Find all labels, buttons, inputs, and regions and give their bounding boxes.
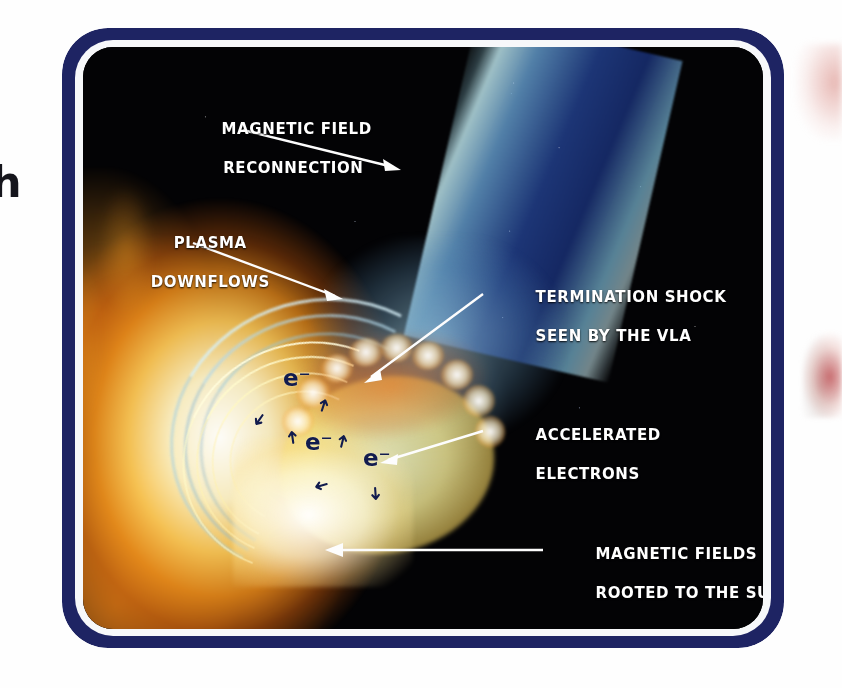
electron-motion-arrow xyxy=(285,430,300,445)
shock-blob xyxy=(410,340,446,372)
label-magnetic-fields-rooted: MAGNETIC FIELDS ROOTED TO THE SUN xyxy=(549,526,763,622)
label-line-2: SEEN BY THE VLA xyxy=(536,327,692,345)
label-plasma-downflows: PLASMA DOWNFLOWS xyxy=(103,215,271,311)
label-termination-shock: TERMINATION SHOCK SEEN BY THE VLA xyxy=(489,269,726,365)
shock-blob xyxy=(379,332,415,364)
termination-shock-arc xyxy=(270,318,517,498)
label-line-1: TERMINATION SHOCK xyxy=(536,288,727,306)
label-line-2: RECONNECTION xyxy=(223,159,363,177)
cut-off-text-glyph: h xyxy=(0,157,21,207)
label-line-2: DOWNFLOWS xyxy=(151,273,270,291)
label-line-2: ELECTRONS xyxy=(536,465,640,483)
electron-symbol: e⁻ xyxy=(283,365,311,391)
illustration-frame: e⁻ e⁻ e⁻ xyxy=(62,28,784,648)
page-bleed-mid-right xyxy=(802,332,842,418)
artwork-viewport: e⁻ e⁻ e⁻ xyxy=(83,47,763,629)
label-line-1: PLASMA xyxy=(174,234,247,252)
shock-blob xyxy=(347,336,385,368)
page-bleed-top-right xyxy=(796,44,842,140)
illustration-page: h xyxy=(0,0,842,688)
electron-symbol: e⁻ xyxy=(363,445,391,471)
label-line-1: ACCELERATED xyxy=(536,426,661,444)
label-accelerated-electrons: ACCELERATED ELECTRONS xyxy=(489,407,661,503)
electron-motion-arrow xyxy=(369,487,383,501)
label-line-1: MAGNETIC FIELD xyxy=(222,120,372,138)
label-line-1: MAGNETIC FIELDS xyxy=(596,545,758,563)
label-magnetic-field-reconnection: MAGNETIC FIELD RECONNECTION xyxy=(175,101,365,197)
electron-symbol: e⁻ xyxy=(305,429,333,455)
label-line-2: ROOTED TO THE SUN xyxy=(596,584,763,602)
